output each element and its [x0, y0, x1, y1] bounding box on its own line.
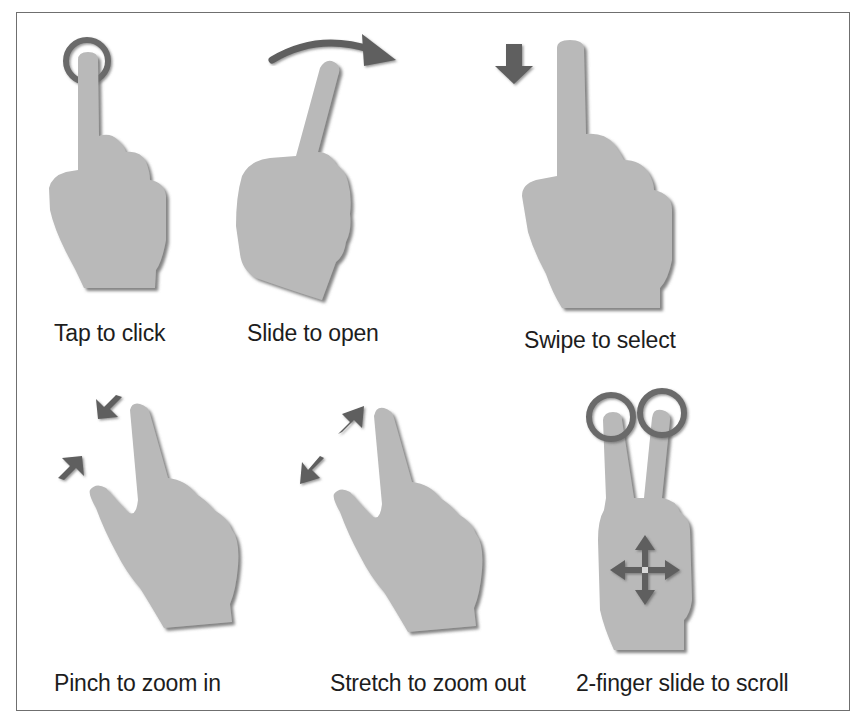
arrows-outward-icon [300, 406, 364, 484]
hand-swipe-icon [522, 40, 672, 308]
gesture-illustrations [0, 0, 864, 724]
hand-two-finger-icon [598, 410, 692, 650]
curved-arrow-right-icon [272, 43, 372, 60]
gesture-label-stretch: Stretch to zoom out [330, 670, 526, 697]
hand-pinch-icon [90, 404, 239, 628]
stretch-gesture [300, 406, 482, 632]
arrows-inward-icon [58, 395, 122, 480]
arrow-down-icon [495, 44, 533, 84]
pinch-gesture [58, 395, 238, 628]
curved-arrow-head [362, 34, 396, 66]
gesture-label-two-finger-scroll: 2-finger slide to scroll [576, 670, 789, 697]
slide-gesture [236, 34, 396, 300]
hand-stretch-icon [334, 408, 483, 632]
gesture-label-pinch: Pinch to zoom in [54, 670, 221, 697]
swipe-gesture [495, 40, 672, 308]
two-finger-scroll-gesture [589, 391, 692, 650]
hand-slide-icon [236, 61, 351, 300]
gesture-label-tap: Tap to click [54, 320, 165, 347]
gesture-label-swipe: Swipe to select [524, 327, 676, 354]
tap-gesture [49, 40, 166, 288]
hand-tap-icon [49, 52, 166, 288]
gesture-label-slide: Slide to open [247, 320, 379, 347]
